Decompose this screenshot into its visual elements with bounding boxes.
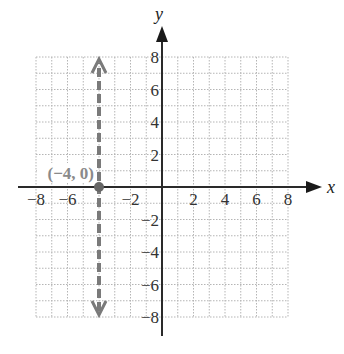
x-axis-label: x <box>326 177 335 197</box>
point-marker <box>94 182 104 192</box>
x-tick-labels: −8−6−22468 <box>27 190 292 209</box>
point-label: (−4, 0) <box>47 164 94 183</box>
x-tick-label: −2 <box>121 190 139 209</box>
y-axis-arrow-icon <box>156 26 168 42</box>
x-tick-label: 2 <box>189 190 198 209</box>
x-axis-arrow-icon <box>306 181 322 193</box>
y-tick-label: 4 <box>151 113 160 132</box>
y-tick-label: −8 <box>141 308 159 327</box>
y-tick-label: −2 <box>141 211 159 230</box>
x-tick-label: 6 <box>252 190 261 209</box>
coordinate-plane: x y −8−6−22468 8642−2−4−6−8 (−4, 0) <box>0 0 344 354</box>
y-tick-label: 8 <box>151 48 160 67</box>
x-tick-label: 4 <box>221 190 230 209</box>
y-tick-label: 2 <box>151 146 160 165</box>
y-tick-label: −4 <box>141 243 160 262</box>
y-axis-label: y <box>153 4 163 24</box>
y-tick-label: −6 <box>141 276 159 295</box>
x-tick-label: −8 <box>27 190 45 209</box>
x-tick-label: −6 <box>58 190 76 209</box>
y-tick-label: 6 <box>151 81 160 100</box>
x-tick-label: 8 <box>284 190 293 209</box>
